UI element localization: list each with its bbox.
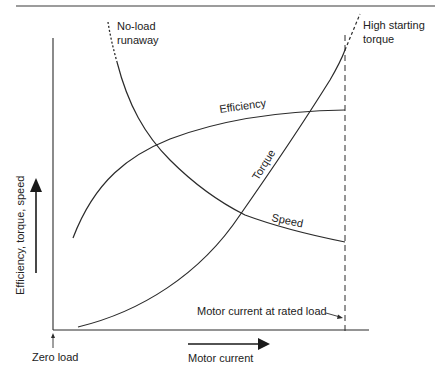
- up-arrow-icon: [30, 178, 42, 192]
- zero-load-label: Zero load: [32, 351, 78, 363]
- rated-load-label: Motor current at rated load: [197, 305, 327, 317]
- motor-characteristics-diagram: No-load runaway High starting torque Eff…: [0, 0, 441, 380]
- efficiency-label: Efficiency: [219, 97, 268, 115]
- torque-label: Torque: [250, 147, 278, 182]
- torque-curve: [78, 50, 345, 327]
- no-load-label-line2: runaway: [117, 34, 159, 46]
- y-axis-label: Efficiency, torque, speed: [14, 176, 26, 295]
- x-axis-label: Motor current: [188, 352, 253, 364]
- high-torque-label-line1: High starting: [363, 19, 425, 31]
- efficiency-curve: [73, 110, 345, 238]
- speed-label: Speed: [271, 211, 305, 229]
- right-arrow-icon: [258, 338, 270, 350]
- no-load-label-line1: No-load: [117, 20, 156, 32]
- rated-load-arrow-icon: [337, 315, 343, 320]
- speed-curve-dashed: [108, 22, 117, 62]
- speed-curve: [117, 62, 345, 242]
- high-torque-label-line2: torque: [363, 33, 394, 45]
- torque-curve-dashed: [345, 14, 360, 50]
- y-axis-indicator: Efficiency, torque, speed: [14, 176, 42, 295]
- zero-load-arrow-icon: [51, 333, 55, 338]
- x-axis-indicator: Motor current: [188, 338, 270, 364]
